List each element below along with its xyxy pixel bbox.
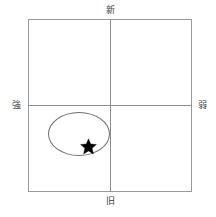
positioning-matrix-diagram: 新 旧 強 弱 xyxy=(0,0,216,217)
star-marker xyxy=(80,138,97,155)
axis-label-right: 弱 xyxy=(194,100,210,110)
horizontal-axis-line xyxy=(28,105,192,106)
grouping-ellipse xyxy=(48,112,110,156)
axis-label-left: 強 xyxy=(8,100,24,110)
axis-label-top: 新 xyxy=(101,5,119,15)
axis-label-bottom: 旧 xyxy=(101,196,119,206)
